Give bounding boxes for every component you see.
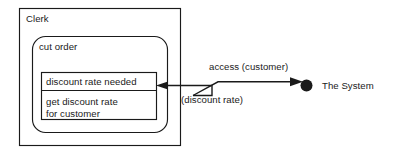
cut-order-label: cut order <box>39 41 77 53</box>
system-node-dot <box>301 80 313 92</box>
access-connector-label: access (customer) <box>209 61 288 73</box>
system-node-label: The System <box>322 80 374 92</box>
return-connector-label: (discount rate) <box>181 94 243 106</box>
diagram-canvas: Clerk cut order discount rate needed get… <box>0 0 401 153</box>
clerk-label: Clerk <box>26 13 49 25</box>
state-compartment-label: discount rate needed <box>46 76 137 88</box>
return-arrow-head <box>156 82 168 90</box>
action-compartment-label: get discount rate for customer <box>46 96 118 119</box>
